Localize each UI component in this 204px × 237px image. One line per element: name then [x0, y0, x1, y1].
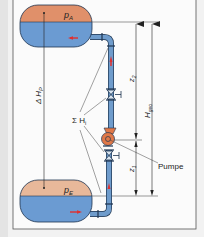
sum-hi-label: Σ Hi: [72, 116, 86, 126]
pump-system-diagram: pA pE Δ HP Σ Hi z2 z1 Hgeo Pumpe: [0, 0, 204, 237]
pump-label: Pumpe: [158, 162, 184, 171]
upper-tank: [20, 5, 92, 47]
lower-tank: [20, 180, 92, 222]
